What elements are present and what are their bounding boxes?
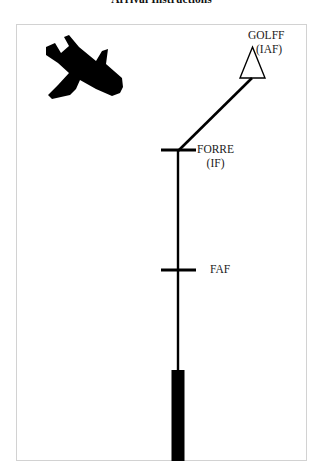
waypoint-label-forre: FORRE (IF) bbox=[197, 143, 234, 170]
arrival-instructions-page: Arrival Instructions GOLFF (IAF) bbox=[0, 0, 323, 476]
waypoint-name-faf: FAF bbox=[210, 263, 230, 275]
waypoint-label-golff: GOLFF (IAF) bbox=[248, 29, 284, 56]
waypoint-qualifier-forre: (IF) bbox=[197, 157, 234, 171]
airplane-silhouette-icon bbox=[36, 33, 124, 113]
leg-golff-to-forre bbox=[178, 78, 252, 151]
diagram-stage: GOLFF (IAF) FORRE (IF) FAF bbox=[0, 0, 323, 476]
runway-bar bbox=[172, 370, 185, 461]
waypoint-name-golff: GOLFF bbox=[248, 29, 284, 41]
waypoint-label-faf: FAF bbox=[210, 263, 230, 277]
waypoint-qualifier-golff: (IAF) bbox=[256, 43, 284, 57]
waypoint-name-forre: FORRE bbox=[197, 143, 234, 155]
